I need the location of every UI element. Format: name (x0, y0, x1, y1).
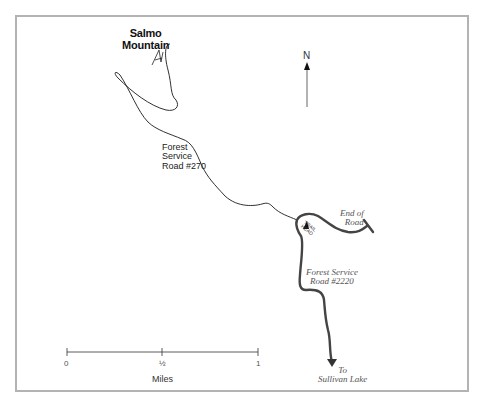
north-arrow-icon (304, 62, 310, 70)
peak-name-line1: Salmo (122, 28, 169, 40)
scale-tick-0: 0 (64, 360, 68, 368)
north-label: N (303, 51, 310, 62)
road-fs270-line (115, 44, 297, 220)
destination-label: To Sullivan Lake (318, 366, 367, 385)
peak-name-line2: Mountain (122, 40, 169, 52)
road-fs2220-line2: Road #2220 (306, 277, 358, 286)
destination-line2: Sullivan Lake (318, 375, 367, 384)
road-fs270-line3: Road #270 (162, 162, 206, 171)
scale-bar (67, 348, 258, 356)
scale-tick-1: 1 (256, 360, 260, 368)
scale-tick-half: ½ (159, 360, 166, 368)
road-fs270-label: Forest Service Road #270 (162, 143, 206, 171)
road-fs2220-label: Forest Service Road #2220 (306, 268, 358, 287)
mountain-peak-icon (152, 50, 163, 65)
scale-unit-label: Miles (152, 375, 173, 384)
end-of-road-label: End of Road (340, 209, 364, 228)
peak-label: Salmo Mountain (122, 28, 169, 51)
end-of-road-line2: Road (340, 218, 364, 227)
map-canvas (0, 0, 482, 402)
road-fs2220-line (296, 214, 367, 362)
